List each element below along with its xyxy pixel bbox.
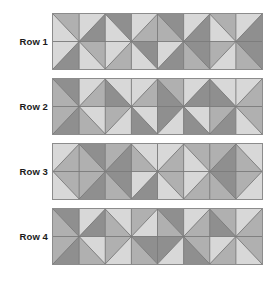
row-label-1: Row 1 [0, 37, 48, 47]
quilt-cell [210, 144, 236, 172]
quilt-cell [105, 42, 131, 70]
quilt-cell [79, 79, 105, 107]
quilt-cell [53, 172, 79, 200]
quilt-cell [236, 14, 262, 42]
quilt-row-panel-3 [52, 143, 263, 200]
quilt-cell [79, 42, 105, 70]
quilt-cell [131, 209, 157, 237]
quilt-cell [131, 79, 157, 107]
quilt-cell [236, 209, 262, 237]
quilt-cell [210, 172, 236, 200]
quilt-cell [236, 42, 262, 70]
quilt-cell [158, 107, 184, 135]
quilt-cell [53, 144, 79, 172]
quilt-cell [158, 209, 184, 237]
quilt-cell [210, 42, 236, 70]
quilt-cell [79, 237, 105, 265]
quilt-cell [184, 107, 210, 135]
quilt-cell [210, 209, 236, 237]
quilt-cell [236, 79, 262, 107]
quilt-row-panel-2 [52, 78, 263, 135]
quilt-cell [210, 107, 236, 135]
quilt-cell [79, 14, 105, 42]
quilt-row-panel-4 [52, 208, 263, 265]
quilt-cell [131, 144, 157, 172]
row-label-3: Row 3 [0, 167, 48, 177]
row-label-2: Row 2 [0, 102, 48, 112]
quilt-cell [105, 144, 131, 172]
quilt-cell [131, 107, 157, 135]
quilt-cell [105, 107, 131, 135]
quilt-cell [158, 144, 184, 172]
quilt-cell [210, 14, 236, 42]
quilt-cell [158, 237, 184, 265]
quilt-cell [184, 144, 210, 172]
quilt-cell [53, 79, 79, 107]
quilt-cell [105, 14, 131, 42]
quilt-cell [131, 172, 157, 200]
quilt-cell [105, 237, 131, 265]
quilt-cell [158, 172, 184, 200]
quilt-cell [158, 79, 184, 107]
quilt-cell [184, 42, 210, 70]
quilt-cell [236, 144, 262, 172]
quilt-cell [79, 107, 105, 135]
quilt-cell [184, 79, 210, 107]
quilt-cell [236, 107, 262, 135]
quilt-cell [210, 79, 236, 107]
quilt-cell [131, 14, 157, 42]
quilt-cell [131, 237, 157, 265]
quilt-cell [158, 42, 184, 70]
quilt-cell [53, 42, 79, 70]
quilt-diagram: Row 1Row 2Row 3Row 4 [0, 0, 271, 283]
quilt-cell [105, 79, 131, 107]
quilt-cell [105, 209, 131, 237]
quilt-cell [236, 237, 262, 265]
quilt-cell [184, 14, 210, 42]
quilt-cell [79, 209, 105, 237]
quilt-row-canvas-3 [53, 144, 262, 199]
quilt-cell [184, 237, 210, 265]
quilt-row-canvas-1 [53, 14, 262, 69]
quilt-cell [131, 42, 157, 70]
row-label-4: Row 4 [0, 232, 48, 242]
quilt-cell [53, 107, 79, 135]
quilt-cell [79, 144, 105, 172]
quilt-cell [79, 172, 105, 200]
quilt-cell [184, 209, 210, 237]
quilt-cell [53, 237, 79, 265]
quilt-cell [158, 14, 184, 42]
quilt-cell [184, 172, 210, 200]
quilt-row-panel-1 [52, 13, 263, 70]
quilt-cell [53, 209, 79, 237]
quilt-row-canvas-2 [53, 79, 262, 134]
quilt-cell [236, 172, 262, 200]
quilt-row-canvas-4 [53, 209, 262, 264]
quilt-cell [210, 237, 236, 265]
quilt-cell [53, 14, 79, 42]
quilt-cell [105, 172, 131, 200]
